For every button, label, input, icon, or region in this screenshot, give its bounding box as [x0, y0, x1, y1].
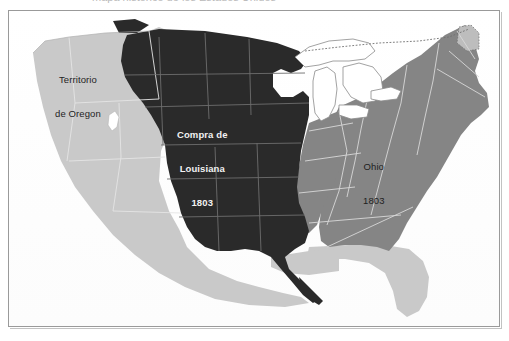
label-louisiana-year: 1803: [177, 197, 228, 208]
map-frame: Territorio de Oregon Compra de Louisiana…: [8, 10, 500, 327]
label-ohio-year: 1803: [363, 195, 385, 206]
map-page: mapa histórico de los Estados Unidos: [0, 0, 509, 341]
clipped-caption-text: mapa histórico de los Estados Unidos: [92, 0, 276, 3]
label-oregon-line1: Territorio: [55, 74, 101, 85]
map-label-territorio-de-oregon: Territorio de Oregon: [55, 52, 101, 142]
label-louisiana-line1: Compra de: [177, 129, 228, 140]
label-louisiana-line2: Louisiana: [177, 163, 228, 174]
label-ohio-line1: Ohio: [363, 161, 385, 172]
map-label-ohio: Ohio 1803: [363, 139, 385, 229]
map-frame-shadow-bottom: [10, 328, 502, 329]
map-label-compra-de-louisiana: Compra de Louisiana 1803: [177, 107, 228, 230]
label-oregon-line2: de Oregon: [55, 108, 101, 119]
map-frame-shadow-right: [501, 12, 502, 329]
clipped-caption-sliver: mapa histórico de los Estados Unidos: [92, 0, 322, 4]
lake-erie: [339, 105, 369, 119]
